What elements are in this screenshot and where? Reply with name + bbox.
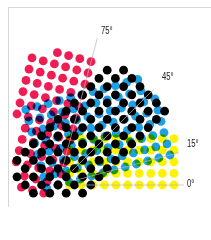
black-dot <box>95 156 104 165</box>
black-dot <box>62 123 71 132</box>
magenta-dot <box>22 76 31 85</box>
black-dot <box>144 107 153 116</box>
black-dot <box>29 156 38 165</box>
cyan-dot <box>160 128 169 137</box>
black-dot <box>111 156 120 165</box>
black-dot <box>119 66 128 75</box>
black-dot <box>62 189 71 198</box>
black-dot <box>160 107 169 116</box>
yellow-dot <box>158 169 167 178</box>
magenta-dot <box>24 113 33 122</box>
black-dot <box>95 123 104 132</box>
black-dot <box>86 131 95 140</box>
black-dot <box>37 164 46 173</box>
black-dot <box>45 156 54 165</box>
black-dot <box>29 189 38 198</box>
cyan-dot <box>163 139 172 148</box>
black-dot <box>127 140 136 149</box>
black-dot <box>127 74 136 83</box>
black-dot <box>152 99 161 108</box>
black-dot <box>119 131 128 140</box>
black-dot <box>103 82 112 91</box>
yellow-dot <box>170 169 179 178</box>
magenta-dot <box>75 54 84 63</box>
magenta-dot <box>53 48 62 57</box>
black-dot <box>111 74 120 83</box>
black-dot <box>13 156 22 165</box>
black-dot <box>78 172 87 181</box>
magenta-dot <box>72 66 81 75</box>
black-dot <box>103 148 112 157</box>
magenta-dot <box>25 65 34 74</box>
black-dot <box>70 99 79 108</box>
angle-label-45: 45° <box>162 70 174 82</box>
black-dot <box>54 164 63 173</box>
black-dot <box>103 115 112 124</box>
magenta-dot <box>52 96 61 105</box>
black-dot <box>45 189 54 198</box>
black-dot <box>54 115 63 124</box>
magenta-dot <box>66 88 75 97</box>
angle-label-75: 75° <box>101 24 113 36</box>
black-dot <box>95 90 104 99</box>
magenta-dot <box>38 104 47 113</box>
black-dot <box>111 90 120 99</box>
black-dot <box>62 172 71 181</box>
black-dot <box>62 156 71 165</box>
magenta-dot <box>21 124 30 133</box>
black-dot <box>45 140 54 149</box>
black-dot <box>78 123 87 132</box>
black-dot <box>86 82 95 91</box>
magenta-dot <box>30 90 39 99</box>
black-dot <box>70 181 79 190</box>
black-dot <box>54 181 63 190</box>
black-dot <box>37 181 46 190</box>
black-dot <box>21 148 30 157</box>
black-dot <box>103 66 112 75</box>
black-dot <box>62 107 71 116</box>
black-dot <box>144 123 153 132</box>
black-dot <box>136 82 145 91</box>
black-dot <box>86 164 95 173</box>
magenta-dot <box>64 51 73 60</box>
magenta-dot <box>44 82 53 91</box>
black-dot <box>70 148 79 157</box>
black-dot <box>127 123 136 132</box>
black-dot <box>78 140 87 149</box>
magenta-dot <box>47 71 56 80</box>
magenta-dot <box>58 74 67 83</box>
black-dot <box>45 172 54 181</box>
black-dot <box>29 172 38 181</box>
angle-label-0: 0° <box>187 177 194 189</box>
magenta-dot <box>39 57 48 66</box>
magenta-dot <box>49 107 58 116</box>
black-dot <box>37 131 46 140</box>
yellow-dot <box>146 169 155 178</box>
cyan-dot <box>129 148 138 157</box>
magenta-dot <box>19 87 28 96</box>
magenta-dot <box>18 135 27 144</box>
yellow-dot <box>170 134 179 143</box>
magenta-dot <box>33 79 42 88</box>
magenta-dot <box>41 93 50 102</box>
black-dot <box>13 172 22 181</box>
magenta-dot <box>50 60 59 69</box>
magenta-dot <box>55 85 64 94</box>
black-dot <box>95 74 104 83</box>
black-dot <box>37 148 46 157</box>
black-dot <box>152 115 161 124</box>
black-dot <box>111 107 120 116</box>
black-dot <box>54 148 63 157</box>
magenta-dot <box>61 63 70 72</box>
black-dot <box>29 140 38 149</box>
black-dot <box>45 123 54 132</box>
cyan-dot <box>86 124 95 133</box>
black-dot <box>78 189 87 198</box>
black-dot <box>111 140 120 149</box>
black-dot <box>136 115 145 124</box>
black-dot <box>78 107 87 116</box>
black-dot <box>119 99 128 108</box>
black-dot <box>21 164 30 173</box>
cyan-dot <box>151 142 160 151</box>
cyan-dot <box>140 145 149 154</box>
